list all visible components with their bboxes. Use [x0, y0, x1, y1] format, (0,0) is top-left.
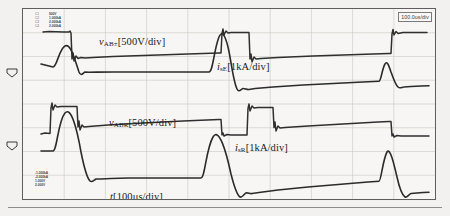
label-vabr-subscript: ABR [114, 121, 129, 129]
oscilloscope-figure: 100.0us/div C1 500V C2 1.000kA C3 2.000k… [0, 0, 450, 216]
timebase-badge: 100.0us/div [398, 12, 432, 22]
readout-value: 2.000kA [49, 25, 61, 29]
ground-reference-arrow-icon [6, 68, 20, 78]
ground-reference-marker-icon [6, 137, 20, 147]
label-vabr-scale: [500V/div] [128, 117, 176, 128]
label-ise-scale: [1kA/div] [227, 61, 269, 72]
trace-vabr [41, 103, 429, 137]
readout-channel: C4 [35, 25, 43, 29]
figure-bottom-rule [8, 207, 442, 208]
label-vabe: vAB±[500V/div] [99, 36, 165, 48]
label-vabr: vABR[500V/div] [109, 117, 176, 129]
channel-readout-top: C1 500V C2 1.000kA C3 2.000kA C4 2.000kA [35, 13, 61, 29]
label-ise: isE[1kA/div] [217, 61, 270, 73]
readout-row: C4 2.000kA [35, 25, 61, 29]
label-isr-subscript: sR [238, 146, 246, 154]
channel-readout-bottom: -1.000kA -2.000kA 1.000V 2.000V [35, 172, 48, 188]
readout-row: 2.000V [35, 184, 48, 188]
label-vabe-subscript: AB± [104, 40, 118, 48]
oscilloscope-screen: 100.0us/div C1 500V C2 1.000kA C3 2.000k… [22, 8, 436, 200]
ground-reference-marker-icon [6, 64, 20, 74]
label-time-scale: [100μs/div] [113, 191, 163, 200]
label-isr-scale: [1kA/div] [246, 142, 288, 153]
readout-value: 2.000V [35, 184, 45, 188]
label-isr: isR[1kA/div] [235, 142, 288, 154]
timebase-text: 100.0us/div [401, 14, 429, 20]
ground-reference-arrow-icon [6, 141, 20, 151]
waveform-traces [23, 9, 435, 199]
label-timebase: t[100μs/div] [110, 191, 163, 200]
label-vabe-scale: [500V/div] [118, 36, 166, 47]
trace-isr [41, 112, 429, 197]
